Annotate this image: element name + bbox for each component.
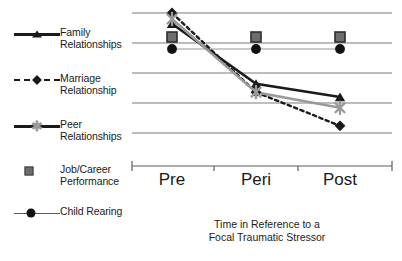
x-axis-caption: Time in Reference to a Focal Traumatic S… [152, 218, 382, 244]
circle-marker-icon [27, 208, 36, 217]
series-line [172, 24, 340, 97]
square-marker-icon [25, 166, 34, 175]
square-key-icon [14, 163, 60, 178]
square-data-point [335, 32, 345, 42]
circle-data-point [167, 44, 177, 54]
square-data-point [167, 32, 177, 42]
legend-label: Peer Relationships [60, 118, 122, 142]
cross-data-point [252, 86, 261, 98]
diamond-data-point [335, 120, 346, 131]
triangle-data-point [335, 92, 345, 101]
diamond-data-point [167, 8, 178, 19]
x-tick-label-pre: Pre [132, 170, 212, 190]
legend-label: Family Relationships [60, 26, 122, 50]
legend-label: Marriage Relationship [60, 72, 117, 96]
legend-item-child-rearing: Child Rearing [14, 205, 132, 220]
circle-line-key-icon [14, 205, 60, 220]
legend-item-peer-relationships: ✱ Peer Relationships [14, 118, 132, 142]
cross-data-point [336, 102, 345, 114]
triangle-line-key-icon [14, 26, 60, 41]
diamond-marker-icon [32, 75, 42, 85]
x-tick-label-peri: Peri [216, 170, 296, 190]
legend-label: Child Rearing [60, 205, 122, 218]
circle-data-point [335, 44, 345, 54]
diamond-dashed-key-icon [14, 72, 60, 87]
series-line [172, 13, 340, 126]
legend-item-marriage-relationship: Marriage Relationship [14, 72, 132, 96]
circle-data-point [251, 44, 261, 54]
legend-item-job-career-performance: Job/Career Performance [14, 163, 132, 187]
legend-label: Job/Career Performance [60, 163, 119, 187]
series-line [172, 19, 340, 108]
legend-item-family-relationships: Family Relationships [14, 26, 132, 50]
triangle-data-point [251, 79, 261, 88]
diamond-data-point [251, 87, 262, 98]
x-tick-label-post: Post [300, 170, 380, 190]
cross-line-key-icon: ✱ [14, 118, 60, 133]
triangle-data-point [167, 19, 177, 28]
cross-data-point [168, 13, 177, 25]
cross-marker-icon: ✱ [31, 119, 44, 132]
square-data-point [251, 32, 261, 42]
triangle-marker-icon [32, 30, 42, 37]
chart-figure: Family Relationships Marriage Relationsh… [0, 0, 402, 261]
chart-legend: Family Relationships Marriage Relationsh… [0, 0, 132, 224]
